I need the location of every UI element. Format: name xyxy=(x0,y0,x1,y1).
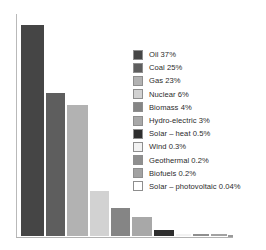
legend-item-label: Wind 0.3% xyxy=(149,142,186,151)
chart-legend: Oil 37%Coal 25%Gas 23%Nuclear 6%Biomass … xyxy=(133,48,266,193)
legend-item-label: Biofuels 0.2% xyxy=(149,169,196,178)
legend-item-label: Biomass 4% xyxy=(149,103,192,112)
bar xyxy=(45,92,66,237)
x-axis-line xyxy=(16,237,233,238)
legend-item: Biofuels 0.2% xyxy=(133,167,266,180)
legend-swatch-icon xyxy=(133,76,143,86)
legend-item: Geothermal 0.2% xyxy=(133,154,266,167)
legend-swatch-icon xyxy=(133,63,143,73)
bar xyxy=(20,24,45,237)
legend-item: Oil 37% xyxy=(133,48,266,61)
legend-item-label: Coal 25% xyxy=(149,63,182,72)
legend-item-label: Geothermal 0.2% xyxy=(149,156,209,165)
legend-item: Gas 23% xyxy=(133,74,266,87)
legend-item-label: Nuclear 6% xyxy=(149,90,189,99)
legend-swatch-icon xyxy=(133,168,143,178)
bar xyxy=(153,229,175,237)
legend-item: Biomass 4% xyxy=(133,101,266,114)
legend-swatch-icon xyxy=(133,102,143,112)
bar xyxy=(131,216,153,237)
legend-item: Solar – heat 0.5% xyxy=(133,127,266,140)
legend-swatch-icon xyxy=(133,181,143,191)
legend-item: Solar – photovoltaic 0.04% xyxy=(133,180,266,193)
legend-swatch-icon xyxy=(133,116,143,126)
bar xyxy=(210,233,228,237)
legend-item-label: Oil 37% xyxy=(149,50,176,59)
bar xyxy=(175,233,192,237)
legend-item: Coal 25% xyxy=(133,61,266,74)
legend-swatch-icon xyxy=(133,142,143,152)
bar xyxy=(110,207,131,237)
legend-item: Nuclear 6% xyxy=(133,88,266,101)
bar xyxy=(66,104,89,237)
legend-item-label: Gas 23% xyxy=(149,76,181,85)
bar xyxy=(192,233,210,237)
legend-swatch-icon xyxy=(133,89,143,99)
legend-item-label: Solar – photovoltaic 0.04% xyxy=(149,182,241,191)
legend-item: Wind 0.3% xyxy=(133,140,266,153)
legend-swatch-icon xyxy=(133,129,143,139)
bar xyxy=(228,235,233,237)
legend-swatch-icon xyxy=(133,50,143,60)
energy-sources-bar-chart: Oil 37%Coal 25%Gas 23%Nuclear 6%Biomass … xyxy=(0,0,266,250)
legend-item: Hydro-electric 3% xyxy=(133,114,266,127)
legend-swatch-icon xyxy=(133,155,143,165)
legend-item-label: Solar – heat 0.5% xyxy=(149,129,210,138)
bar xyxy=(89,190,110,237)
legend-item-label: Hydro-electric 3% xyxy=(149,116,210,125)
